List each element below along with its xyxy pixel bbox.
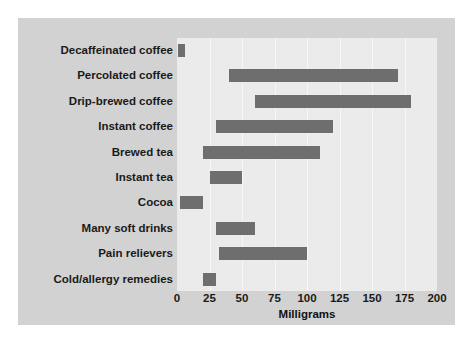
category-label: Pain relievers [18, 241, 173, 266]
caffeine-range-chart: Decaffeinated coffeePercolated coffeeDri… [0, 0, 472, 344]
bar-row [177, 267, 437, 291]
category-label: Drip-brewed coffee [18, 89, 173, 114]
bar [203, 146, 320, 159]
category-label: Brewed tea [18, 140, 173, 165]
category-label: Instant tea [18, 165, 173, 190]
bar-row [177, 241, 437, 266]
bar [203, 273, 216, 286]
bar [219, 247, 307, 260]
plot-area [177, 38, 437, 291]
category-label: Cocoa [18, 190, 173, 215]
category-label: Percolated coffee [18, 63, 173, 88]
x-tick-label: 0 [174, 292, 180, 304]
x-tick-label: 200 [427, 292, 446, 304]
x-tick-label: 50 [236, 292, 249, 304]
bar-row [177, 38, 437, 63]
bar-row [177, 63, 437, 88]
bar-row [177, 114, 437, 139]
bar [255, 95, 411, 108]
bar-row [177, 89, 437, 114]
category-label: Instant coffee [18, 114, 173, 139]
x-tick-label: 75 [268, 292, 281, 304]
chart-panel: Decaffeinated coffeePercolated coffeeDri… [18, 18, 455, 325]
bar [216, 222, 255, 235]
bar-row [177, 216, 437, 241]
category-label: Decaffeinated coffee [18, 38, 173, 63]
x-axis-title: Milligrams [177, 308, 437, 320]
bar [210, 171, 243, 184]
category-label: Many soft drinks [18, 216, 173, 241]
category-label: Cold/allergy remedies [18, 267, 173, 292]
bar-row [177, 140, 437, 165]
category-axis-labels: Decaffeinated coffeePercolated coffeeDri… [18, 38, 173, 291]
x-axis-tick-labels: 0255075100125150175200 [177, 292, 437, 308]
bar [229, 69, 398, 82]
x-tick-label: 100 [297, 292, 316, 304]
bar-row [177, 165, 437, 190]
x-tick-label: 25 [203, 292, 216, 304]
bar-row [177, 190, 437, 215]
x-tick-label: 125 [330, 292, 349, 304]
bar [216, 120, 333, 133]
x-tick-label: 150 [362, 292, 381, 304]
bar [178, 44, 185, 57]
x-tick-label: 175 [395, 292, 414, 304]
bar [180, 196, 203, 209]
